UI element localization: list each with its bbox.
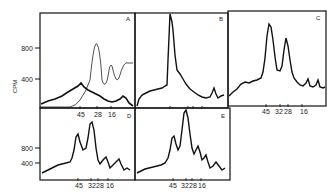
x-tick-label-e-28: 28 <box>189 182 197 189</box>
x-tick-label-c-45: 45 <box>262 108 270 115</box>
panel-b-frame <box>135 13 228 108</box>
x-tick-label-a-28: 28 <box>94 111 102 118</box>
y-tick-label-400-a: 400 <box>21 76 33 83</box>
panel-c-frame <box>228 11 326 106</box>
x-tick-label-a-45: 45 <box>77 111 85 118</box>
x-tick-label-d-16: 16 <box>106 182 114 189</box>
x-tick-label-c-32: 32 <box>275 108 283 115</box>
x-tick-label-e-32: 32 <box>181 182 189 189</box>
x-tick-label-c-16: 16 <box>300 108 308 115</box>
figure-canvas: CPM A 800 400 45 28 16 B C <box>0 0 335 196</box>
y-tick-label-400-d: 400 <box>21 160 33 167</box>
x-tick-label-c-28: 28 <box>284 108 292 115</box>
y-tick-label-800-a: 800 <box>21 45 33 52</box>
x-tick-label-d-28: 28 <box>96 182 104 189</box>
radioactivity-trace-b <box>137 14 224 106</box>
panel-e-frame <box>135 108 230 180</box>
panel-d: D 800 400 45 32 28 16 <box>21 108 135 189</box>
y-tick-label-800-d: 800 <box>21 145 33 152</box>
panel-a-frame <box>40 13 135 108</box>
x-tick-label-e-45: 45 <box>169 182 177 189</box>
x-tick-label-a-16: 16 <box>108 111 116 118</box>
x-tick-label-d-32: 32 <box>88 182 96 189</box>
x-tick-label-d-45: 45 <box>75 182 83 189</box>
panel-b: B <box>135 13 228 109</box>
radioactivity-trace-e <box>137 110 225 173</box>
absorbance-trace-a <box>40 44 133 107</box>
radioactivity-trace-c <box>229 24 325 96</box>
radioactivity-trace-a <box>41 83 133 106</box>
panel-c: C 45 32 28 16 <box>228 11 326 115</box>
y-axis-label: CPM <box>12 80 18 93</box>
panel-c-letter: C <box>316 15 321 21</box>
x-tick-label-e-16: 16 <box>198 182 206 189</box>
panel-d-letter: D <box>127 113 132 119</box>
panel-e-letter: E <box>221 113 225 119</box>
panel-e: E 45 32 28 16 <box>135 108 230 189</box>
panel-a: A 800 400 45 28 16 <box>21 13 135 118</box>
radioactivity-trace-d <box>42 122 130 173</box>
panel-b-letter: B <box>219 16 223 22</box>
panel-a-letter: A <box>126 16 130 22</box>
